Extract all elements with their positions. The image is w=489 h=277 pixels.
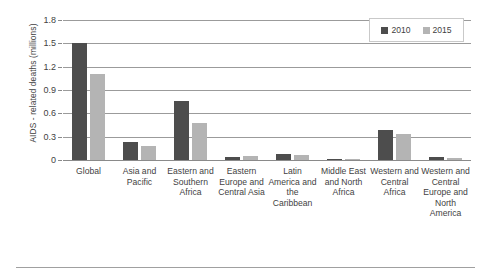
- y-tick-mark-0.9: [58, 90, 62, 91]
- bar: [243, 156, 258, 160]
- x-axis-label: Eastern and Southern Africa: [165, 166, 216, 219]
- bar: [141, 146, 156, 160]
- legend-label-2015: 2015: [433, 25, 452, 35]
- y-axis-title: AIDS - related deaths (millions): [28, 6, 38, 161]
- x-axis-label: Western and Central Africa: [369, 166, 420, 219]
- legend-swatch-icon-2010: [381, 27, 388, 34]
- bar-chart-figure: AIDS - related deaths (millions) 00.30.6…: [0, 0, 489, 277]
- bar: [174, 101, 189, 160]
- bar: [90, 74, 105, 160]
- legend-label-2010: 2010: [391, 25, 410, 35]
- x-axis-label: Latin America and the Caribbean: [267, 166, 318, 219]
- x-axis-label: Middle East and North Africa: [318, 166, 369, 219]
- y-tick-mark-1.2: [58, 67, 62, 68]
- x-axis-label: Western and Central Europe and North Ame…: [420, 166, 471, 219]
- footer-divider: [16, 267, 475, 268]
- y-tick-label-0.9: 0.9: [43, 85, 56, 95]
- y-tick-mark-0.6: [58, 113, 62, 114]
- bar-group: [318, 20, 369, 160]
- bar: [378, 130, 393, 160]
- bar: [327, 159, 342, 160]
- bar-group: [216, 20, 267, 160]
- bar-group: [165, 20, 216, 160]
- x-axis-label: Global: [63, 166, 114, 219]
- legend-swatch-icon-2015: [423, 27, 430, 34]
- y-tick-label-1.8: 1.8: [43, 15, 56, 25]
- bar-group: [63, 20, 114, 160]
- bar: [72, 43, 87, 160]
- bar-group: [114, 20, 165, 160]
- x-axis-label: Eastern Europe and Central Asia: [216, 166, 267, 219]
- y-tick-label-0: 0: [51, 155, 56, 165]
- chart-legend: 2010 2015: [369, 18, 464, 42]
- y-tick-label-0.6: 0.6: [43, 108, 56, 118]
- bar: [123, 142, 138, 160]
- x-axis-label: Asia and Pacific: [114, 166, 165, 219]
- bar: [225, 157, 240, 160]
- y-tick-mark-0.3: [58, 137, 62, 138]
- bar-group: [267, 20, 318, 160]
- bar: [276, 154, 291, 160]
- y-tick-label-0.3: 0.3: [43, 132, 56, 142]
- y-tick-mark-0: [58, 160, 62, 161]
- x-axis-category-labels: GlobalAsia and PacificEastern and Southe…: [63, 166, 471, 219]
- legend-item-2010: 2010: [381, 25, 410, 35]
- bar: [345, 159, 360, 160]
- bar: [429, 157, 444, 160]
- gridline-0: [63, 160, 471, 161]
- bar: [294, 155, 309, 160]
- legend-item-2015: 2015: [423, 25, 452, 35]
- y-tick-label-1.5: 1.5: [43, 38, 56, 48]
- bar: [192, 123, 207, 160]
- bar: [396, 134, 411, 160]
- y-tick-mark-1.8: [58, 20, 62, 21]
- y-tick-label-1.2: 1.2: [43, 62, 56, 72]
- bar: [447, 158, 462, 160]
- y-tick-mark-1.5: [58, 43, 62, 44]
